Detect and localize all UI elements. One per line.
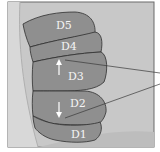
segment-label-d2: D2 [70, 97, 86, 110]
segment-label-d1: D1 [71, 128, 87, 141]
segment-label-d5: D5 [56, 19, 72, 32]
disk-diagram: D5 D4 D3 D2 D1 [0, 0, 160, 152]
segment-label-d4: D4 [61, 40, 77, 53]
segment-label-d3: D3 [68, 70, 84, 83]
